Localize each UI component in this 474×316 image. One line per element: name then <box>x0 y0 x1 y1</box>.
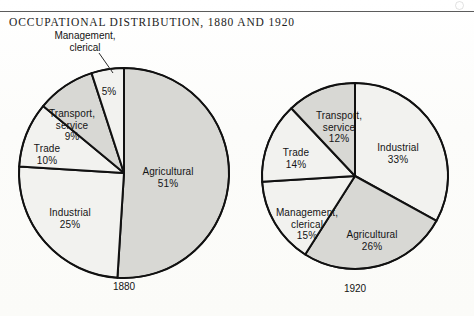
pie-slice-percent: 10% <box>2 155 92 167</box>
pie-slice-name: Management, <box>262 207 352 219</box>
pie-slice-label: Transport,service9% <box>27 108 117 143</box>
pie-slice-percent: 14% <box>251 159 341 171</box>
pie-slice-percent: 51% <box>123 178 213 190</box>
pie-slice-percent: 33% <box>353 154 443 166</box>
pie-slice-label: 5% <box>64 86 154 98</box>
pie-slice-percent: 26% <box>327 241 417 253</box>
year-label-1880: 1880 <box>104 281 144 292</box>
year-label-1920: 1920 <box>335 283 375 294</box>
pie-slice-percent: 9% <box>27 131 117 143</box>
pie-slice-label: Transport,service12% <box>294 110 384 145</box>
pie-slice-percent: 15% <box>262 230 352 242</box>
pie-slice-name: service <box>294 122 384 134</box>
pie-slice-percent: 5% <box>64 86 154 98</box>
pie-slice-percent: 25% <box>25 219 115 231</box>
pie-slice-label: Management,clerical15% <box>262 207 352 242</box>
pie-slice-name: Transport, <box>294 110 384 122</box>
pie-slice-name: service <box>27 120 117 132</box>
pie-slice-name: Agricultural <box>123 166 213 178</box>
pie-slice-name: clerical <box>262 219 352 231</box>
pie-slice-label: Trade10% <box>2 143 92 166</box>
pie-slice-label: Industrial33% <box>353 142 443 165</box>
figure-occupational-distribution: OCCUPATIONAL DISTRIBUTION, 1880 AND 1920… <box>0 0 474 316</box>
pie-slice-name: Trade <box>2 143 92 155</box>
callout-management-clerical: Management, clerical <box>46 30 124 53</box>
callout-line-1: Management, <box>46 30 124 42</box>
pie-slice-name: Transport, <box>27 108 117 120</box>
pie-slice-name: Trade <box>251 147 341 159</box>
pie-slice-label: Industrial25% <box>25 207 115 230</box>
pie-slice-name: Industrial <box>25 207 115 219</box>
pie-slice-label: Agricultural51% <box>123 166 213 189</box>
callout-line-2: clerical <box>46 42 124 54</box>
pie-slice-label: Trade14% <box>251 147 341 170</box>
pie-slice-percent: 12% <box>294 133 384 145</box>
